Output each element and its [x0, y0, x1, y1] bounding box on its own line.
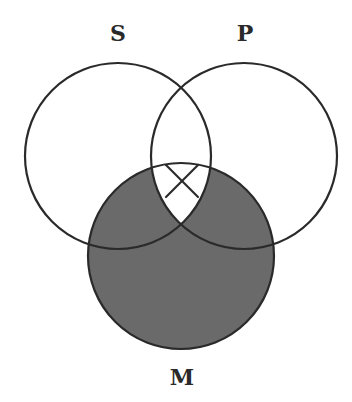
label-m: M	[170, 364, 194, 390]
venn-diagram: S P M	[0, 0, 352, 402]
label-p: P	[237, 20, 254, 46]
label-s: S	[110, 20, 126, 46]
